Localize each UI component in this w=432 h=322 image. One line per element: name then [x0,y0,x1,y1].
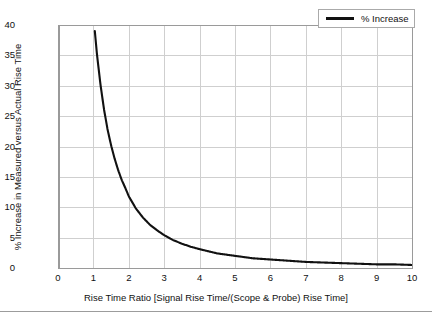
x-tick-label: 8 [339,273,344,283]
series-line-percent-increase [95,31,412,265]
x-tick-label: 6 [268,273,273,283]
x-tick-label: 10 [407,273,418,283]
legend-line-swatch [326,17,354,20]
x-tick-label: 3 [162,273,167,283]
x-tick-label: 9 [374,273,379,283]
x-tick-label: 7 [303,273,308,283]
x-tick-label: 1 [91,273,96,283]
legend-entry-label: % Increase [361,13,409,24]
y-axis-title-wrapper: % Increase in Measured versus Actual Ris… [10,25,24,268]
footer-rule [0,311,432,312]
x-tick-label: 2 [126,273,131,283]
x-tick-label: 0 [55,273,60,283]
x-tick-label: 5 [232,273,237,283]
x-axis-title: Rise Time Ratio [Signal Rise Time/(Scope… [0,292,432,303]
chart-figure: 012345678910 0510152025303540 Rise Time … [0,0,432,322]
x-tick-label: 4 [197,273,202,283]
chart-legend: % Increase [318,9,415,28]
series-layer [58,25,412,268]
y-axis-title: % Increase in Measured versus Actual Ris… [12,43,23,249]
